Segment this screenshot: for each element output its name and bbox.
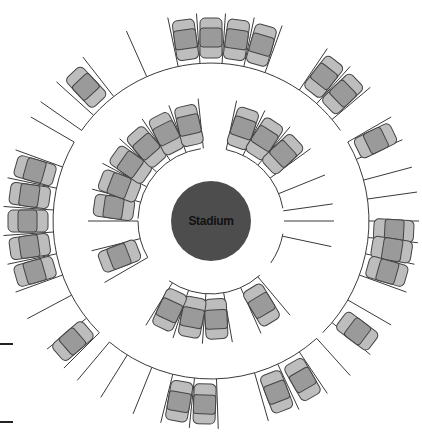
- edge-tick-mark: [0, 343, 13, 345]
- lower-right-arc: [271, 234, 283, 263]
- parked-car-icon: [97, 239, 142, 274]
- stall-divider-line: [133, 367, 152, 413]
- parked-car-icon: [242, 282, 281, 328]
- parked-car-icon: [204, 298, 228, 339]
- stall-divider-line: [27, 295, 71, 318]
- edge-tick-mark: [0, 421, 13, 423]
- stall-divider-line: [126, 31, 146, 77]
- right-arc: [323, 142, 369, 333]
- stall-divider-line: [217, 379, 219, 429]
- stall-divider-line: [364, 167, 412, 180]
- top-arc: [82, 63, 341, 130]
- stall-divider-line: [279, 175, 325, 194]
- stall-divider-line: [283, 204, 333, 211]
- stadium: Stadium: [171, 181, 251, 261]
- parked-car-icon: [51, 320, 96, 363]
- parked-car-icon: [13, 155, 58, 187]
- parked-car-icon: [245, 23, 277, 68]
- parked-car-icon: [335, 310, 380, 352]
- stall-divider-line: [367, 192, 417, 199]
- stall-divider-line: [317, 338, 350, 375]
- parked-car-icon: [165, 380, 194, 423]
- parked-car-icon: [8, 210, 48, 232]
- left-arc: [53, 142, 99, 333]
- parking-diagram: Stadium: [0, 0, 422, 433]
- parked-car-icon: [200, 18, 222, 58]
- parked-car-icon: [65, 65, 108, 109]
- parked-car-icon: [13, 255, 58, 287]
- stadium-label: Stadium: [188, 214, 233, 228]
- stall-divider-line: [101, 355, 127, 397]
- parked-car-icon: [353, 122, 399, 159]
- parked-car-icon: [193, 384, 216, 425]
- stall-divider-line: [282, 236, 331, 246]
